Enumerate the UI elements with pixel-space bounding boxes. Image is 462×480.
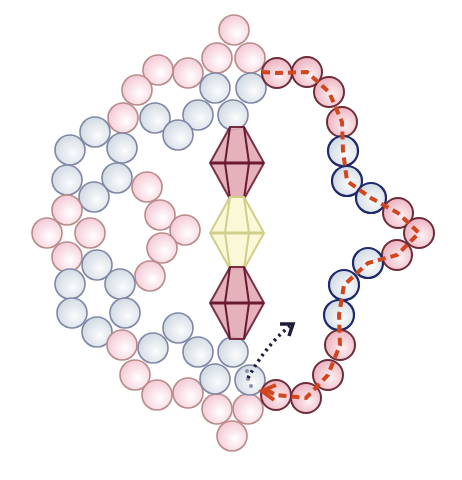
pink-bicone-bead [210, 267, 264, 339]
blue-seed-bead [138, 333, 168, 363]
pink-seed-bead [217, 421, 247, 451]
pink-seed-bead [122, 75, 152, 105]
pink-seed-bead [173, 378, 203, 408]
blue-seed-bead [80, 117, 110, 147]
blue-seed-bead [107, 133, 137, 163]
pink-seed-bead [75, 218, 105, 248]
blue-seed-bead [55, 135, 85, 165]
pink-seed-bead [52, 242, 82, 272]
blue-seed-bead [55, 269, 85, 299]
pink-seed-bead [173, 58, 203, 88]
blue-seed-bead [200, 364, 230, 394]
yellow-bicone-bead [210, 197, 264, 269]
blue-seed-bead [236, 73, 266, 103]
pink-seed-bead [235, 43, 265, 73]
pink-seed-bead [135, 261, 165, 291]
pink-seed-bead [32, 218, 62, 248]
blue-seed-bead [105, 269, 135, 299]
blue-seed-bead [163, 120, 193, 150]
pink-seed-bead [202, 394, 232, 424]
pink-bicone-bead [210, 127, 264, 199]
blue-seed-bead [183, 337, 213, 367]
blue-seed-bead [200, 73, 230, 103]
blue-seed-bead [79, 182, 109, 212]
pink-seed-bead [132, 172, 162, 202]
pink-seed-bead [202, 43, 232, 73]
pink-seed-bead [219, 15, 249, 45]
beadwork-diagram [0, 0, 462, 480]
pink-seed-bead [233, 394, 263, 424]
bicone-group [210, 127, 264, 339]
blue-seed-bead [57, 298, 87, 328]
blue-seed-bead [52, 165, 82, 195]
pink-seed-bead [147, 233, 177, 263]
pink-seed-bead [108, 103, 138, 133]
blue-seed-bead [218, 100, 248, 130]
pink-seed-bead [107, 330, 137, 360]
blue-seed-bead [329, 270, 359, 300]
arrowhead-icon [280, 324, 293, 336]
blue-seed-bead [163, 313, 193, 343]
blue-seed-bead [218, 337, 248, 367]
pink-seed-bead [142, 380, 172, 410]
blue-seed-bead [110, 298, 140, 328]
